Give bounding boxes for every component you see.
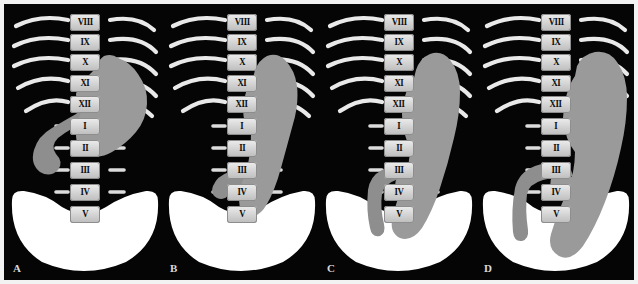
vertebra-l5: V <box>541 206 571 223</box>
vertebra-t12: XII <box>541 96 571 113</box>
vertebra-l2: II <box>227 140 257 157</box>
vertebra-l2: II <box>70 140 100 157</box>
vertebra-t11: XI <box>70 75 100 92</box>
vertebra-l4: IV <box>541 184 571 201</box>
panel-d: VIII IX X XI XII I II III IV V D <box>477 4 634 280</box>
vertebra-t11: XI <box>541 75 571 92</box>
panel-b-letter: B <box>170 262 178 274</box>
figure-canvas: VIII IX X XI XII I II III IV V A <box>4 4 634 280</box>
panel-a-letter: A <box>13 262 21 274</box>
vertebra-t10: X <box>70 54 100 71</box>
vertebra-l5: V <box>70 206 100 223</box>
vertebra-l3: III <box>227 162 257 179</box>
vertebra-t11: XI <box>384 75 414 92</box>
vertebra-t9: IX <box>227 34 257 51</box>
panel-c-letter: C <box>327 262 335 274</box>
vertebra-l4: IV <box>384 184 414 201</box>
vertebra-t9: IX <box>70 34 100 51</box>
vertebra-t12: XII <box>70 96 100 113</box>
vertebra-t8: VIII <box>227 14 257 31</box>
vertebra-l1: I <box>384 118 414 135</box>
vertebra-l1: I <box>70 118 100 135</box>
vertebra-t9: IX <box>384 34 414 51</box>
vertebra-l2: II <box>384 140 414 157</box>
vertebra-l5: V <box>384 206 414 223</box>
vertebra-t11: XI <box>227 75 257 92</box>
vertebra-t10: X <box>541 54 571 71</box>
pelvis-shape <box>12 191 158 271</box>
vertebra-l1: I <box>541 118 571 135</box>
vertebra-l5: V <box>227 206 257 223</box>
panel-b: VIII IX X XI XII I II III IV V B <box>163 4 320 280</box>
vertebra-l3: III <box>541 162 571 179</box>
vertebra-t8: VIII <box>541 14 571 31</box>
vertebra-t12: XII <box>227 96 257 113</box>
figure-plate: VIII IX X XI XII I II III IV V A <box>0 0 638 284</box>
vertebra-l4: IV <box>227 184 257 201</box>
vertebra-l3: III <box>70 162 100 179</box>
vertebra-l3: III <box>384 162 414 179</box>
vertebra-l4: IV <box>70 184 100 201</box>
vertebra-t12: XII <box>384 96 414 113</box>
vertebra-t8: VIII <box>70 14 100 31</box>
vertebra-l2: II <box>541 140 571 157</box>
vertebra-t10: X <box>384 54 414 71</box>
panel-c: VIII IX X XI XII I II III IV V C <box>320 4 477 280</box>
vertebra-t8: VIII <box>384 14 414 31</box>
vertebra-t9: IX <box>541 34 571 51</box>
panel-d-letter: D <box>484 262 492 274</box>
vertebra-l1: I <box>227 118 257 135</box>
vertebra-t10: X <box>227 54 257 71</box>
panel-a: VIII IX X XI XII I II III IV V A <box>6 4 163 280</box>
